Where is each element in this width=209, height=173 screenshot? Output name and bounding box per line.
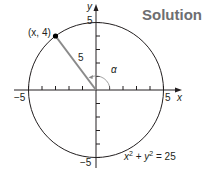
point-label: (x, 4)	[28, 27, 51, 38]
y-axis-label: y	[86, 1, 93, 12]
point-marker	[53, 33, 58, 38]
radius-segment	[56, 36, 97, 90]
y-tick-label-neg5: −5	[80, 157, 92, 168]
segment-length-label: 5	[78, 52, 84, 63]
y-tick-label-5: 5	[87, 15, 93, 26]
x-tick-label-5: 5	[165, 92, 171, 103]
circle-equation: x2 + y2 = 25	[123, 150, 176, 162]
angle-label: α	[111, 64, 117, 75]
circle-diagram: (x, 4) 5 α y x 5 −5 −5 5 x2 + y2 = 25	[0, 0, 209, 173]
angle-arrow-icon	[89, 75, 94, 79]
x-axis-label: x	[176, 92, 183, 103]
y-axis-arrow-icon	[94, 4, 99, 11]
x-tick-label-neg5: −5	[14, 92, 26, 103]
